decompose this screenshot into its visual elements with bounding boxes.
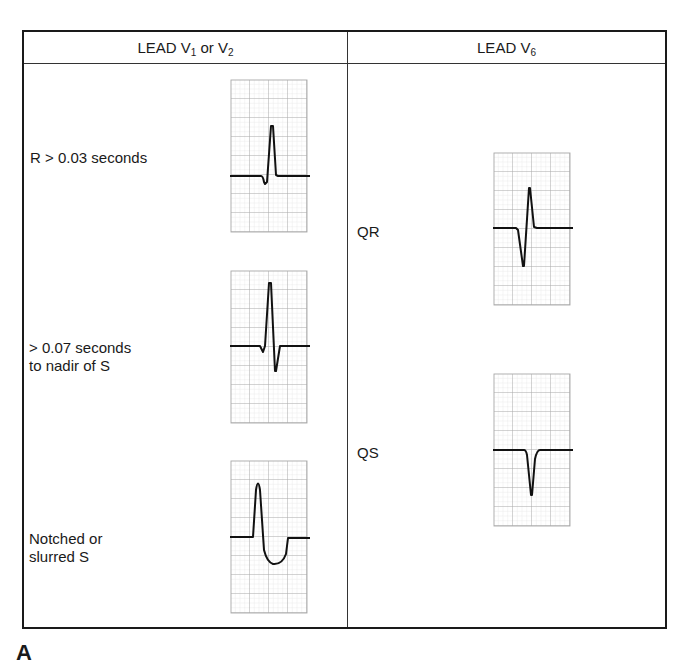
criterion-label-r-duration: R > 0.03 seconds bbox=[30, 149, 147, 167]
header-lead-v1-v2: LEAD V1 or V2 bbox=[24, 32, 347, 63]
ecg-strip-deep-s bbox=[230, 270, 310, 425]
label-line: R > 0.03 seconds bbox=[30, 149, 147, 167]
column-divider bbox=[347, 32, 348, 627]
subscript: 2 bbox=[228, 47, 234, 58]
label-line: Notched or bbox=[29, 530, 102, 548]
ecg-strip-qs bbox=[493, 373, 573, 528]
criterion-label-qs: QS bbox=[357, 444, 379, 462]
subscript: 6 bbox=[530, 47, 536, 58]
header-text: LEAD V bbox=[477, 39, 530, 56]
criterion-label-s-nadir: > 0.07 seconds to nadir of S bbox=[29, 339, 131, 375]
label-line: to nadir of S bbox=[29, 357, 131, 375]
ecg-strip-wide-r bbox=[230, 79, 310, 234]
criteria-table: LEAD V1 or V2 LEAD V6 bbox=[22, 30, 667, 629]
ecg-strip-qr bbox=[493, 152, 573, 307]
label-line: QR bbox=[357, 223, 380, 241]
criterion-label-notched-s: Notched or slurred S bbox=[29, 530, 102, 566]
header-text: or V bbox=[196, 39, 228, 56]
criterion-label-qr: QR bbox=[357, 223, 380, 241]
panel-letter: A bbox=[16, 640, 32, 664]
ecg-strip-slurred-s bbox=[230, 460, 310, 615]
label-line: QS bbox=[357, 444, 379, 462]
header-text: LEAD V bbox=[137, 39, 190, 56]
header-lead-v6: LEAD V6 bbox=[348, 32, 665, 63]
label-line: slurred S bbox=[29, 548, 102, 566]
label-line: > 0.07 seconds bbox=[29, 339, 131, 357]
